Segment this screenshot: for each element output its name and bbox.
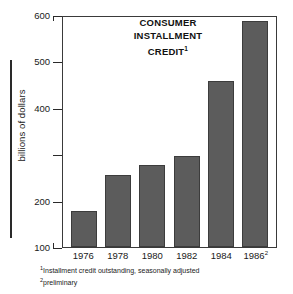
bar — [139, 165, 165, 247]
footnotes: 1Installment credit outstanding, seasona… — [40, 264, 200, 288]
y-axis-tick-label: 200 — [24, 197, 50, 206]
x-axis-tick-label: 1982 — [174, 250, 200, 261]
y-axis-bracket-hook — [53, 243, 54, 248]
chart-figure: billions of dollars 600500400200100 CONS… — [0, 0, 293, 294]
y-axis-tick-labels: 600500400200100 — [20, 0, 50, 294]
y-axis-label-bracket — [10, 60, 12, 238]
footnote-1-text: Installment credit outstanding, seasonal… — [43, 267, 199, 274]
chart-title: CONSUMERINSTALLMENTCREDIT1 — [108, 16, 228, 58]
chart-title-line: CREDIT1 — [108, 42, 228, 58]
y-axis-tick-mark — [53, 62, 62, 63]
footnote-2-text: preliminary — [43, 279, 77, 286]
bar — [174, 156, 200, 247]
y-axis-tick-mark — [53, 202, 62, 203]
bar — [208, 81, 234, 247]
x-axis-tick-labels: 1976197819801982198419862 — [62, 250, 277, 261]
y-axis-tick-mark — [53, 16, 62, 17]
footnote-2: 2preliminary — [40, 276, 200, 288]
y-axis-tick-label: 500 — [24, 57, 50, 66]
x-axis-tick-label: 1984 — [208, 250, 234, 261]
x-axis-tick-label: 19862 — [243, 250, 269, 261]
bar — [71, 211, 97, 247]
y-axis-tick-label: 600 — [24, 11, 50, 20]
bar — [105, 175, 131, 247]
chart-title-line: INSTALLMENT — [108, 29, 228, 42]
y-axis-tick-label: 100 — [24, 243, 50, 252]
y-axis-tick-mark — [53, 248, 62, 249]
chart-title-line: CONSUMER — [108, 16, 228, 29]
y-axis-tick-mark — [53, 109, 62, 110]
footnote-1: 1Installment credit outstanding, seasona… — [40, 264, 200, 276]
y-axis-tick-mark — [53, 155, 62, 156]
x-axis-footnote-marker: 2 — [265, 250, 268, 256]
bar — [242, 21, 268, 247]
y-axis-bracket-hook — [53, 16, 54, 21]
y-axis-tick-label: 400 — [24, 104, 50, 113]
x-axis-tick-label: 1978 — [105, 250, 131, 261]
chart-title-footnote-marker: 1 — [184, 45, 188, 52]
x-axis-tick-label: 1976 — [70, 250, 96, 261]
x-axis-tick-label: 1980 — [139, 250, 165, 261]
